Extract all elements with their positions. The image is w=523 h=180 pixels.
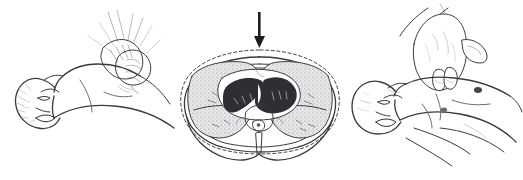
compression-arrow-large [254,12,265,48]
infant-head [352,81,406,134]
cpr-technique-figure [0,0,523,180]
adult-eye [38,97,50,101]
infant-illustration [344,0,523,180]
heart [223,77,297,113]
infant-nipple-left [441,108,447,113]
adult-head [16,75,64,128]
infant-arm [406,128,470,166]
cross-section-illustration [172,0,348,180]
panel-infant-compression [344,0,523,180]
infant-open-mouth [376,119,396,127]
rescuer-forearms [88,10,160,54]
spinal-cord [257,123,261,127]
panel-adult-compression [0,0,180,180]
adult-body [54,64,174,128]
adult-illustration [0,0,180,180]
panel-thoracic-cross-section [172,0,348,180]
adult-open-mouth [36,115,55,122]
infant-eye [378,101,390,105]
rescuer-hand [413,14,487,91]
infant-body [400,77,522,152]
infant-nipple-right [474,87,482,93]
